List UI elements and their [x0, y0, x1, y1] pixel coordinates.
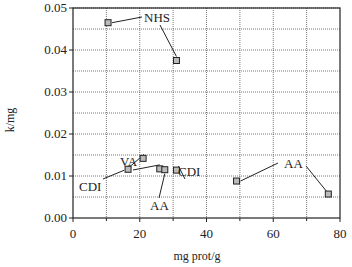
- data-point: [140, 155, 146, 161]
- y-tick-label: 0.01: [44, 168, 67, 183]
- x-axis-label: mg prot/g: [174, 249, 221, 263]
- data-point: [234, 178, 240, 184]
- y-tick-label: 0.02: [44, 126, 67, 141]
- data-point: [105, 20, 111, 26]
- x-tick-label: 0: [70, 226, 77, 241]
- x-tick-label: 80: [334, 226, 347, 241]
- scatter-chart: 0.000.010.020.030.040.05020406080 NHS VA…: [0, 0, 352, 267]
- x-tick-label: 60: [267, 226, 280, 241]
- data-point: [325, 191, 331, 197]
- annotation-va: VA: [120, 154, 138, 169]
- annotation-cdi-right: CDI: [178, 164, 200, 179]
- y-tick-label: 0.00: [44, 210, 67, 225]
- x-tick-label: 40: [200, 226, 213, 241]
- x-tick-label: 20: [133, 226, 146, 241]
- y-tick-label: 0.03: [44, 84, 67, 99]
- y-axis-label: k/mg: [3, 108, 17, 133]
- axis-ticks: 0.000.010.020.030.040.05020406080: [44, 0, 346, 241]
- y-tick-label: 0.04: [44, 42, 67, 57]
- annotation-cdi-left: CDI: [79, 179, 101, 194]
- data-point: [162, 167, 168, 173]
- data-point: [173, 58, 179, 64]
- annotation-aa-center: AA: [150, 198, 169, 213]
- annotation-nhs: NHS: [144, 10, 170, 25]
- annotation-aa-right: AA: [284, 156, 303, 171]
- y-tick-label: 0.05: [44, 0, 67, 15]
- grid-lines: [73, 8, 340, 218]
